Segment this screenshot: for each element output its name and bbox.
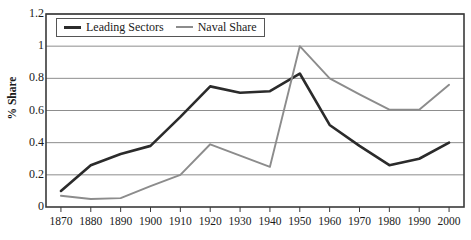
x-axis-tick-label: 2000 bbox=[429, 216, 469, 228]
legend-item: Leading Sectors bbox=[64, 21, 164, 33]
legend-swatch-icon bbox=[176, 26, 193, 28]
legend-swatch-icon bbox=[64, 26, 81, 29]
legend-label: Leading Sectors bbox=[86, 21, 164, 33]
chart-legend: Leading SectorsNaval Share bbox=[56, 18, 265, 37]
legend-label: Naval Share bbox=[198, 21, 257, 33]
legend-item: Naval Share bbox=[176, 21, 257, 33]
chart-container: % Share 00.20.40.60.811.2 18701880189019… bbox=[0, 0, 471, 240]
